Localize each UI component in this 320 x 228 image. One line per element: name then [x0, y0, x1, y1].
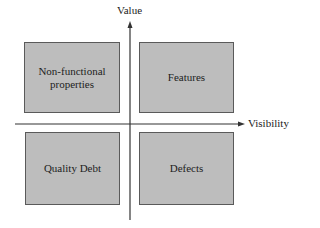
x-axis-arrow-icon: [238, 122, 245, 127]
y-axis-label: Value: [117, 4, 142, 16]
y-axis-arrow-icon: [128, 21, 133, 28]
quadrant-label: Features: [168, 71, 205, 84]
quadrant-label: Non-functional properties: [37, 65, 107, 91]
quadrant-top-right: Features: [139, 42, 234, 113]
quadrant-top-left: Non-functional properties: [24, 42, 120, 113]
quadrant-label: Defects: [170, 162, 204, 175]
x-axis-label: Visibility: [248, 117, 289, 129]
quadrant-bottom-left: Quality Debt: [25, 132, 120, 205]
quadrant-bottom-right: Defects: [139, 132, 234, 205]
quadrant-label: Quality Debt: [44, 162, 101, 175]
